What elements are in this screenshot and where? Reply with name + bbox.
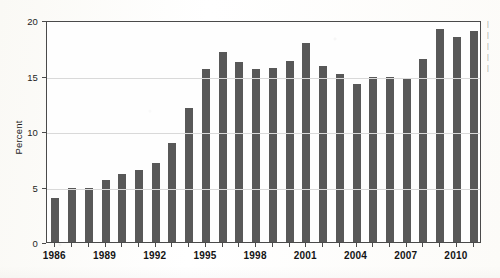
x-tick-mark-1999 [272,243,273,247]
x-tick-mark-1997 [238,243,239,247]
bar-2006 [386,77,394,242]
x-tick-mark-2001 [305,243,306,247]
y-tick-label-15: 15 [0,71,38,82]
y-tick-mark-10 [42,132,46,133]
x-tick-mark-2004 [356,243,357,247]
x-tick-label-1995: 1995 [193,250,216,261]
x-tick-label-2007: 2007 [394,250,417,261]
y-tick-label-10: 10 [0,127,38,138]
bar-2002 [319,66,327,242]
x-tick-label-1998: 1998 [244,250,267,261]
x-tick-mark-2007 [406,243,407,247]
bar-2010 [453,37,461,242]
x-tick-mark-1996 [222,243,223,247]
bar-1998 [252,69,260,242]
bar-1991 [135,170,143,242]
bar-1987 [68,188,76,242]
x-tick-label-1992: 1992 [143,250,166,261]
bar-1990 [118,174,126,242]
x-tick-mark-1991 [138,243,139,247]
caption-fragment-4: | [487,62,500,73]
x-tick-mark-2006 [389,243,390,247]
x-tick-mark-1988 [88,243,89,247]
x-tick-mark-2008 [422,243,423,247]
x-tick-mark-2003 [339,243,340,247]
x-tick-label-1989: 1989 [93,250,116,261]
clipped-caption-fragments: ||||| [487,18,500,84]
y-tick-label-0: 0 [0,238,38,249]
x-tick-mark-1986 [54,243,55,247]
x-tick-label-2010: 2010 [444,250,467,261]
caption-fragment-2: | [487,40,500,51]
bar-series [47,22,480,242]
bar-2000 [286,61,294,242]
bar-2008 [419,59,427,242]
bar-2011 [470,31,478,242]
bar-1992 [152,163,160,242]
x-tick-mark-2010 [456,243,457,247]
y-tick-label-20: 20 [0,16,38,27]
x-tick-label-1986: 1986 [43,250,66,261]
bar-1993 [168,143,176,242]
bar-2007 [403,78,411,242]
bar-2009 [436,29,444,242]
caption-fragment-1: | [487,29,500,40]
bar-1995 [202,69,210,242]
x-tick-mark-2000 [289,243,290,247]
y-tick-mark-5 [42,188,46,189]
x-tick-mark-1990 [121,243,122,247]
x-tick-label-2001: 2001 [294,250,317,261]
bar-1996 [219,52,227,242]
plot-area [46,21,481,243]
caption-fragment-0: | [487,18,500,29]
bar-2005 [369,77,377,242]
x-tick-mark-1993 [171,243,172,247]
x-tick-label-2004: 2004 [344,250,367,261]
bar-1988 [85,188,93,242]
bar-2001 [302,43,310,242]
x-tick-mark-1987 [71,243,72,247]
bar-2003 [336,74,344,242]
bar-1997 [235,62,243,242]
x-tick-mark-2005 [372,243,373,247]
x-tick-mark-1995 [205,243,206,247]
bar-1999 [269,68,277,242]
x-tick-mark-2011 [473,243,474,247]
bar-chart: Percent 05101520 ||||| 19861989199219951… [0,0,500,278]
bar-2004 [353,84,361,242]
y-tick-mark-15 [42,77,46,78]
caption-fragment-3: | [487,51,500,62]
gridline-5 [47,189,480,190]
scan-smudge [0,266,500,278]
x-tick-mark-1998 [255,243,256,247]
x-tick-mark-2002 [322,243,323,247]
bar-1986 [51,198,59,242]
gridline-10 [47,133,480,134]
x-tick-mark-1992 [155,243,156,247]
y-tick-label-5: 5 [0,182,38,193]
bar-1994 [185,108,193,242]
y-axis-labels: Percent 05101520 [0,0,44,278]
y-axis-title: Percent [13,98,24,178]
y-tick-mark-20 [42,21,46,22]
x-tick-mark-2009 [439,243,440,247]
gridline-15 [47,78,480,79]
x-tick-mark-1994 [188,243,189,247]
y-tick-mark-0 [42,243,46,244]
x-tick-mark-1989 [105,243,106,247]
